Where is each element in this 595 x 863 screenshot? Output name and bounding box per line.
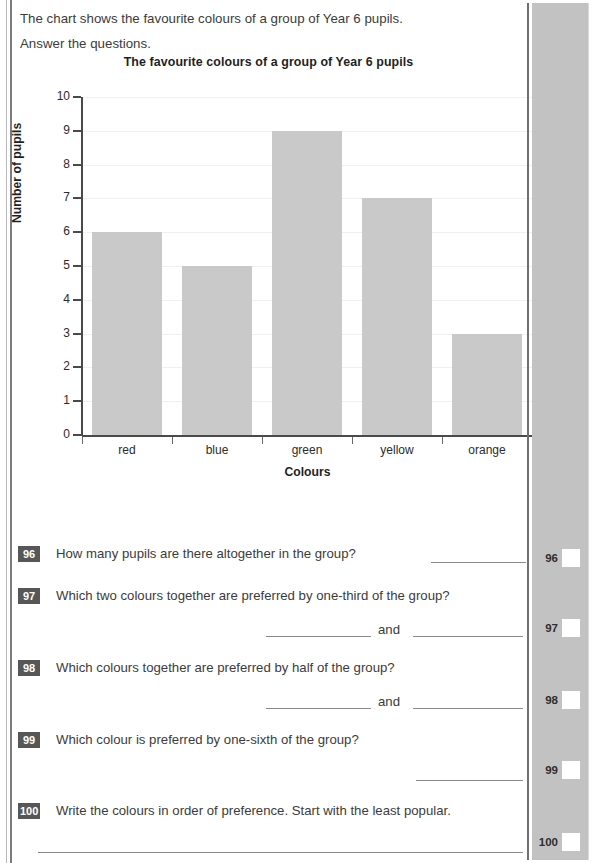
x-axis-spine	[82, 435, 533, 437]
question-number-badge: 99	[18, 732, 40, 748]
mark-row-96: 96	[532, 548, 588, 568]
y-tick	[73, 231, 81, 233]
y-tick	[73, 434, 81, 436]
mark-number: 100	[532, 836, 562, 848]
y-tick	[73, 164, 81, 166]
y-tick	[73, 400, 81, 402]
x-category-label: yellow	[352, 443, 442, 457]
gridline	[82, 97, 532, 98]
intro-line-1: The chart shows the favourite colours of…	[20, 6, 515, 31]
mark-number: 99	[532, 764, 562, 776]
mark-number: 96	[532, 552, 562, 564]
mark-row-100: 100	[532, 832, 588, 852]
mark-number: 98	[532, 694, 562, 706]
x-tick	[442, 437, 443, 444]
answer-line[interactable]	[38, 852, 523, 853]
question-number-badge: 96	[18, 546, 40, 562]
x-tick	[172, 437, 173, 444]
mark-row-97: 97	[532, 618, 588, 638]
bar-yellow	[362, 198, 432, 435]
question-text: Which colours together are preferred by …	[56, 658, 395, 678]
mark-row-99: 99	[532, 760, 588, 780]
x-tick	[352, 437, 353, 444]
bar-orange	[452, 334, 522, 435]
y-tick	[73, 366, 81, 368]
bar-red	[92, 232, 162, 435]
answer-line[interactable]	[431, 562, 526, 563]
x-tick	[262, 437, 263, 444]
question-text: Which two colours together are preferred…	[56, 586, 450, 606]
y-axis-title: Number of pupils	[10, 123, 24, 223]
y-tick-label: 4	[44, 292, 70, 306]
mark-checkbox[interactable]	[562, 691, 580, 709]
y-tick-label: 1	[44, 393, 70, 407]
mark-checkbox[interactable]	[562, 549, 580, 567]
y-tick	[73, 96, 81, 98]
y-tick	[73, 197, 81, 199]
question-number-badge: 97	[18, 588, 40, 604]
mark-number: 97	[532, 622, 562, 634]
x-category-label: green	[262, 443, 352, 457]
y-tick-label: 5	[44, 258, 70, 272]
bar-blue	[182, 266, 252, 435]
answer-connector: and	[378, 622, 400, 637]
margin-rule	[527, 3, 529, 860]
y-tick-label: 10	[44, 89, 70, 103]
y-tick	[73, 333, 81, 335]
y-tick-label: 2	[44, 359, 70, 373]
answer-line-1[interactable]	[266, 636, 371, 637]
y-tick-label: 6	[44, 224, 70, 238]
answer-line-2[interactable]	[413, 708, 523, 709]
y-tick-label: 0	[44, 427, 70, 441]
answer-line-2[interactable]	[413, 636, 523, 637]
y-tick-label: 7	[44, 190, 70, 204]
question-text: Write the colours in order of preference…	[56, 801, 451, 821]
intro-text: The chart shows the favourite colours of…	[20, 6, 515, 56]
answer-connector: and	[378, 694, 400, 709]
mark-row-98: 98	[532, 690, 588, 710]
y-tick	[73, 299, 81, 301]
question-number-badge: 98	[18, 660, 40, 676]
question-text: Which colour is preferred by one-sixth o…	[56, 730, 359, 750]
page-left-rule-outer	[6, 0, 7, 863]
y-tick-label: 9	[44, 123, 70, 137]
y-tick-label: 8	[44, 157, 70, 171]
y-tick	[73, 265, 81, 267]
x-category-label: blue	[172, 443, 262, 457]
bar-chart: The favourite colours of a group of Year…	[16, 55, 521, 525]
marking-margin	[532, 3, 588, 860]
question-text: How many pupils are there altogether in …	[56, 544, 356, 564]
x-tick	[82, 437, 83, 444]
chart-title: The favourite colours of a group of Year…	[16, 55, 521, 69]
answer-line-1[interactable]	[266, 708, 371, 709]
mark-checkbox[interactable]	[562, 761, 580, 779]
x-category-label: red	[82, 443, 172, 457]
y-tick-label: 3	[44, 326, 70, 340]
y-axis-spine	[81, 97, 83, 436]
bar-green	[272, 131, 342, 435]
x-category-label: orange	[442, 443, 532, 457]
y-tick	[73, 130, 81, 132]
x-axis-title: Colours	[82, 465, 533, 479]
intro-line-2: Answer the questions.	[20, 31, 515, 56]
question-number-badge: 100	[18, 803, 40, 819]
worksheet-page: The chart shows the favourite colours of…	[0, 0, 595, 863]
margin-edge	[588, 3, 589, 860]
mark-checkbox[interactable]	[562, 833, 580, 851]
answer-line[interactable]	[416, 780, 523, 781]
mark-checkbox[interactable]	[562, 619, 580, 637]
